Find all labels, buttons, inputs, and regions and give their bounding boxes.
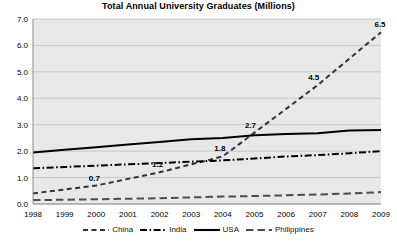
- data-label: 2.7: [245, 121, 257, 130]
- legend-label: China: [112, 226, 133, 234]
- y-axis-tick-label: 2.0: [17, 147, 29, 156]
- x-axis-tick-label: 2009: [372, 210, 390, 219]
- data-label: 1.2: [152, 160, 164, 169]
- x-axis-tick-label: 1998: [24, 210, 42, 219]
- y-axis-tick-label: 5.0: [17, 68, 29, 77]
- y-axis-tick-label: 0.0: [17, 200, 29, 209]
- y-axis-tick-label: 6.0: [17, 41, 29, 50]
- x-axis-tick-label: 2007: [309, 210, 327, 219]
- legend-swatch-philippines-icon: [246, 226, 272, 234]
- legend-swatch-usa-icon: [194, 226, 220, 234]
- x-axis-tick-label: 2008: [340, 210, 358, 219]
- legend-label: Philippines: [275, 226, 314, 234]
- data-label: 0.7: [89, 174, 101, 183]
- x-axis-ticks: 1998199920002001200220032004200520062007…: [24, 210, 390, 219]
- legend-item-philippines[interactable]: Philippines: [246, 226, 314, 234]
- y-axis-tick-label: 1.0: [17, 174, 29, 183]
- data-label: 6.5: [374, 20, 386, 29]
- legend-label: India: [169, 226, 186, 234]
- chart-plot: 0.01.02.03.04.05.06.07.0 199819992000200…: [0, 0, 397, 245]
- x-axis-tick-label: 2001: [119, 210, 137, 219]
- data-label: 4.5: [308, 73, 320, 82]
- x-axis-tick-label: 2002: [151, 210, 169, 219]
- x-axis-tick-label: 1999: [56, 210, 74, 219]
- chart-container: Total Annual University Graduates (Milli…: [0, 0, 397, 245]
- legend-label: USA: [223, 226, 239, 234]
- legend-item-usa[interactable]: USA: [194, 226, 239, 234]
- x-axis-tick-label: 2006: [277, 210, 295, 219]
- y-axis-tick-label: 3.0: [17, 121, 29, 130]
- chart-legend: ChinaIndiaUSAPhilippines: [0, 226, 397, 234]
- x-axis-tick-label: 2003: [182, 210, 200, 219]
- data-label: 1.8: [214, 144, 226, 153]
- x-axis-tick-label: 2000: [87, 210, 105, 219]
- x-axis-tick-label: 2004: [214, 210, 232, 219]
- legend-swatch-india-icon: [140, 226, 166, 234]
- legend-item-india[interactable]: India: [140, 226, 186, 234]
- y-axis-tick-label: 7.0: [17, 15, 29, 24]
- legend-swatch-china-icon: [83, 226, 109, 234]
- x-axis-tick-label: 2005: [246, 210, 264, 219]
- y-axis-tick-label: 4.0: [17, 94, 29, 103]
- y-axis-ticks: 0.01.02.03.04.05.06.07.0: [17, 15, 29, 209]
- legend-item-china[interactable]: China: [83, 226, 133, 234]
- plot-background: [33, 19, 381, 204]
